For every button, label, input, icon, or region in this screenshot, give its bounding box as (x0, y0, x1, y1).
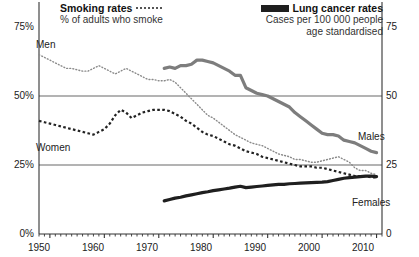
chart-plot-area (0, 0, 419, 257)
axis-lines-group (39, 2, 382, 234)
gridlines-group (39, 96, 382, 165)
series-paths-group (39, 55, 377, 201)
x-axis-ticks-group (39, 234, 382, 238)
lung-cancer-smoking-chart: Smoking rates % of adults who smoke Lung… (0, 0, 419, 257)
